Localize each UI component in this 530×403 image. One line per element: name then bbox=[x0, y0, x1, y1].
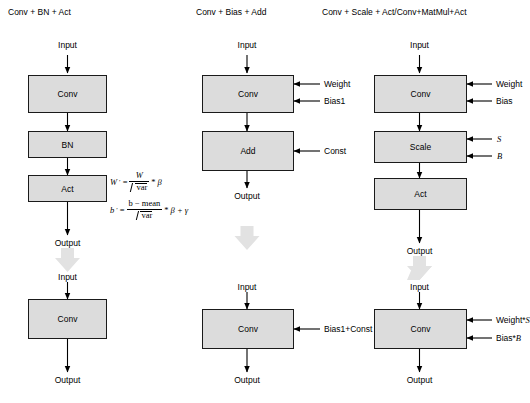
middle-after-side-input-bias1-const: Bias1+Const bbox=[324, 324, 372, 334]
weight-formula-operator: * bbox=[151, 177, 155, 187]
right-after-side-input-weight-s: Weight*S bbox=[496, 315, 530, 325]
middle-side-input-bias1: Bias1 bbox=[324, 96, 345, 106]
node-label: BN bbox=[62, 140, 74, 150]
bias-formula-operator: * bbox=[164, 205, 168, 215]
node-label: Conv bbox=[411, 324, 431, 334]
middle-after-input-label: Input bbox=[238, 282, 257, 292]
weight-s-plain: Weight* bbox=[496, 315, 526, 325]
weight-formula: W ′ = W var * β bbox=[110, 170, 162, 193]
bias-formula-denominator-wrap: var bbox=[127, 209, 163, 221]
node-label: Conv bbox=[58, 314, 78, 324]
weight-s-italic: S bbox=[526, 315, 530, 325]
middle-side-input-const: Const bbox=[324, 146, 346, 156]
sqrt-icon: var bbox=[137, 210, 153, 221]
right-after-output-label: Output bbox=[407, 375, 433, 385]
middle-before-output-label: Output bbox=[234, 191, 260, 201]
left-after-output-label: Output bbox=[55, 375, 81, 385]
weight-formula-numerator: W bbox=[129, 170, 149, 181]
bias-b-italic: B bbox=[516, 333, 521, 343]
bias-formula-eq: = bbox=[120, 205, 125, 215]
right-side-input-bias: Bias bbox=[496, 96, 513, 106]
node-label: Act bbox=[61, 184, 73, 194]
node-label: Conv bbox=[411, 89, 431, 99]
node-label: Conv bbox=[238, 89, 258, 99]
node-add-middle-before[interactable]: Add bbox=[202, 131, 294, 171]
weight-formula-fraction: W var bbox=[129, 170, 149, 193]
transform-arrows bbox=[55, 226, 432, 280]
node-conv-left-after[interactable]: Conv bbox=[28, 299, 107, 339]
weight-formula-denominator-wrap: var bbox=[129, 181, 149, 193]
right-before-output-label: Output bbox=[407, 246, 433, 256]
node-act-right-before[interactable]: Act bbox=[374, 178, 467, 210]
right-before-input-label: Input bbox=[410, 40, 429, 50]
right-after-side-input-bias-b: Bias*B bbox=[496, 333, 521, 343]
transform-arrow-icon-left bbox=[55, 248, 80, 272]
sqrt-icon: var bbox=[131, 182, 147, 193]
right-side-input-s: S bbox=[497, 134, 501, 144]
left-before-input-label: Input bbox=[58, 40, 77, 50]
node-label: Add bbox=[240, 146, 255, 156]
node-conv-middle-after[interactable]: Conv bbox=[202, 309, 294, 349]
node-conv-right-before[interactable]: Conv bbox=[374, 75, 467, 113]
bias-formula-fraction: b − mean var bbox=[127, 198, 163, 221]
weight-formula-eq: = bbox=[123, 177, 128, 187]
node-bn-left-before[interactable]: BN bbox=[28, 131, 107, 158]
weight-formula-rhs: β bbox=[158, 177, 162, 187]
node-conv-right-after[interactable]: Conv bbox=[374, 309, 467, 349]
column-title-conv-bias-add: Conv + Bias + Add bbox=[196, 7, 266, 17]
right-side-input-weight: Weight bbox=[496, 79, 522, 89]
node-label: Scale bbox=[410, 142, 431, 152]
node-label: Conv bbox=[58, 89, 78, 99]
weight-formula-prime: ′ bbox=[119, 178, 121, 186]
right-after-input-label: Input bbox=[410, 282, 429, 292]
bias-formula-numerator: b − mean bbox=[127, 198, 163, 209]
node-label: Act bbox=[414, 189, 426, 199]
bias-formula-prime: ′ bbox=[116, 206, 118, 214]
node-label: Conv bbox=[238, 324, 258, 334]
column-title-conv-scale-act: Conv + Scale + Act/Conv+MatMul+Act bbox=[322, 7, 467, 17]
middle-before-input-label: Input bbox=[238, 40, 257, 50]
weight-formula-lhs: W bbox=[110, 177, 117, 187]
node-conv-left-before[interactable]: Conv bbox=[28, 75, 107, 113]
bias-b-plain: Bias* bbox=[496, 333, 516, 343]
transform-arrow-icon-middle bbox=[235, 226, 260, 250]
left-after-input-label: Input bbox=[58, 272, 77, 282]
column-title-conv-bn-act: Conv + BN + Act bbox=[8, 7, 71, 17]
bias-formula-rhs: β + γ bbox=[171, 205, 189, 215]
bias-formula-lhs: b bbox=[110, 205, 114, 215]
node-act-left-before[interactable]: Act bbox=[28, 175, 107, 202]
right-side-input-b: B bbox=[497, 151, 502, 161]
node-scale-right-before[interactable]: Scale bbox=[374, 131, 467, 163]
left-before-output-label: Output bbox=[55, 238, 81, 248]
middle-side-input-weight: Weight bbox=[324, 79, 350, 89]
bias-formula: b ′ = b − mean var * β + γ bbox=[110, 198, 188, 221]
node-conv-middle-before[interactable]: Conv bbox=[202, 75, 294, 113]
middle-after-output-label: Output bbox=[234, 375, 260, 385]
